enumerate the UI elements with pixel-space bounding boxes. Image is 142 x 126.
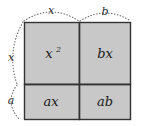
top-brace-group bbox=[24, 12, 131, 21]
left-dimension-a-label: a bbox=[8, 94, 15, 107]
tile-ab-label: ab bbox=[97, 94, 113, 109]
tile-bx-label: bx bbox=[97, 46, 113, 61]
top-dimension-x-label: x bbox=[48, 4, 55, 17]
left-dimension-x-label: x bbox=[8, 51, 15, 64]
tile-x-squared-exponent: 2 bbox=[55, 45, 61, 54]
tile-x-squared-base: x bbox=[45, 46, 53, 61]
algebra-area-model-figure: x b x a x 2 bx ax ab bbox=[0, 0, 142, 126]
area-model-canvas: x b x a x 2 bx ax ab bbox=[0, 0, 142, 126]
left-brace-x-arc bbox=[13, 22, 23, 84]
tile-ax-label: ax bbox=[43, 94, 59, 109]
tile-group bbox=[25, 23, 131, 120]
top-dimension-b-label: b bbox=[101, 5, 108, 18]
